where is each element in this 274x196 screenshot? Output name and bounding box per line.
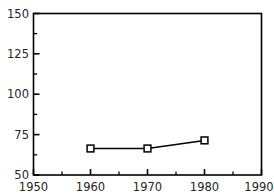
x-tick-label-1990: 1990 bbox=[244, 180, 273, 194]
y-tick-label-100: 100 bbox=[7, 87, 29, 101]
data-point-marker bbox=[144, 145, 151, 152]
x-tick-label-1960: 1960 bbox=[76, 180, 105, 194]
y-tick-label-75: 75 bbox=[14, 128, 29, 142]
chart-container: 50 75 100 125 150 1950 1960 1970 1980 19… bbox=[0, 0, 274, 196]
x-tick-label-1950: 1950 bbox=[19, 180, 48, 194]
y-tick-label-125: 125 bbox=[7, 47, 29, 61]
data-point-marker bbox=[201, 137, 208, 144]
data-point-marker bbox=[87, 145, 94, 152]
x-tick-label-1980: 1980 bbox=[190, 180, 219, 194]
line-chart-plot: 50 75 100 125 150 1950 1960 1970 1980 19… bbox=[0, 0, 274, 196]
x-tick-label-1970: 1970 bbox=[133, 180, 162, 194]
y-tick-label-150: 150 bbox=[7, 7, 29, 21]
